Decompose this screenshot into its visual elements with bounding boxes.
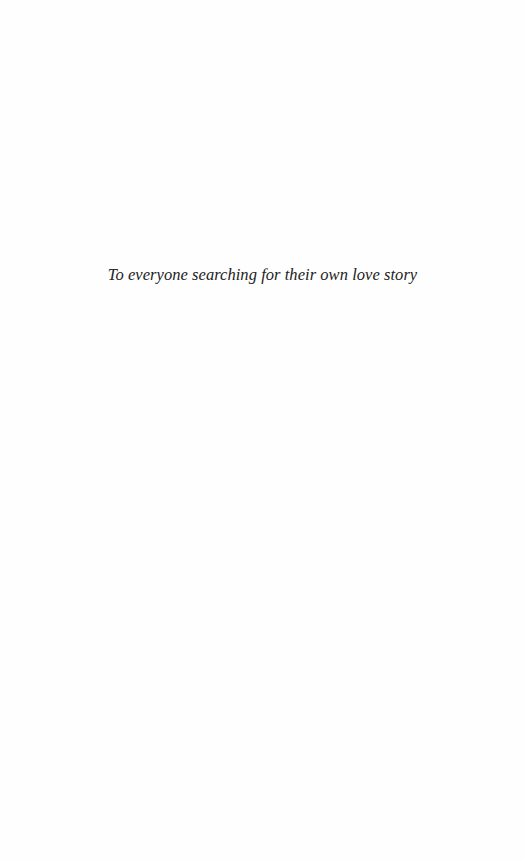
book-page: To everyone searching for their own love… xyxy=(0,0,525,861)
dedication-text: To everyone searching for their own love… xyxy=(0,265,525,285)
